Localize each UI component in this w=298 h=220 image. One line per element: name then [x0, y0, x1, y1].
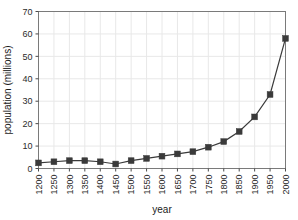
- y-tick-label: 60: [22, 29, 32, 39]
- x-tick-label: 1400: [95, 175, 105, 195]
- x-tick-label: 1800: [219, 175, 229, 195]
- y-axis-title: population (millions): [2, 46, 13, 135]
- data-point-marker: [236, 129, 242, 135]
- data-point-marker: [190, 149, 196, 155]
- population-line-chart: 010203040506070 120012501300135014001450…: [0, 0, 298, 220]
- data-point-marker: [267, 92, 273, 98]
- y-tick-label: 70: [22, 7, 32, 17]
- data-point-marker: [175, 151, 181, 157]
- data-point-marker: [159, 153, 165, 159]
- chart-canvas: 010203040506070 120012501300135014001450…: [0, 0, 298, 220]
- data-point-marker: [283, 36, 289, 42]
- x-tick-label: 1900: [250, 175, 260, 195]
- x-tick-label: 1700: [188, 175, 198, 195]
- data-point-marker: [128, 158, 134, 164]
- x-axis-tick-labels: 1200125013001350140014501500155016001650…: [34, 175, 291, 195]
- x-tick-label: 1550: [142, 175, 152, 195]
- x-tick-label: 1350: [80, 175, 90, 195]
- data-point-marker: [252, 114, 258, 120]
- y-tick-label: 30: [22, 96, 32, 106]
- data-point-marker: [205, 144, 211, 150]
- x-tick-label: 1500: [126, 175, 136, 195]
- data-point-marker: [51, 159, 57, 165]
- y-tick-label: 0: [27, 164, 32, 174]
- x-tick-label: 1600: [157, 175, 167, 195]
- data-point-marker: [66, 158, 72, 164]
- x-tick-label: 1850: [234, 175, 244, 195]
- data-point-marker: [36, 160, 42, 166]
- x-tick-label: 2000: [281, 175, 291, 195]
- data-point-marker: [97, 159, 103, 165]
- y-tick-label: 10: [22, 141, 32, 151]
- x-tick-label: 1950: [265, 175, 275, 195]
- y-tick-label: 20: [22, 119, 32, 129]
- x-tick-label: 1200: [34, 175, 44, 195]
- data-point-marker: [113, 161, 119, 167]
- x-tick-label: 1750: [204, 175, 214, 195]
- x-axis-title: year: [152, 204, 172, 215]
- data-point-marker: [144, 156, 150, 162]
- x-tick-label: 1300: [65, 175, 75, 195]
- x-tick-label: 1650: [173, 175, 183, 195]
- y-tick-label: 40: [22, 74, 32, 84]
- x-tick-label: 1250: [49, 175, 59, 195]
- data-point-marker: [82, 158, 88, 164]
- x-tick-label: 1450: [111, 175, 121, 195]
- y-tick-label: 50: [22, 52, 32, 62]
- data-point-marker: [221, 139, 227, 145]
